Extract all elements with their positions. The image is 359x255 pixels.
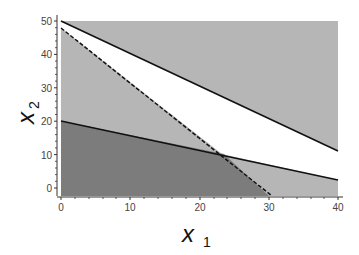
x-axis: 0 10 20 30 40 — [57, 197, 344, 213]
y-tick-label: 40 — [41, 49, 53, 60]
y-tick-label: 20 — [41, 116, 53, 127]
x-tick-label: 30 — [263, 202, 275, 213]
y-tick-label: 0 — [46, 183, 52, 194]
y-tick-label: 30 — [41, 83, 53, 94]
x-tick-label: 40 — [332, 202, 344, 213]
y-axis: 50 40 30 20 10 0 — [41, 15, 57, 196]
x-tick-label: 20 — [194, 202, 206, 213]
svg-text:x: x — [181, 220, 195, 247]
svg-text:2: 2 — [26, 101, 42, 109]
svg-text:x: x — [12, 111, 39, 125]
svg-text:1: 1 — [203, 234, 211, 250]
x-axis-title: x 1 — [181, 220, 211, 250]
y-tick-label: 10 — [41, 150, 53, 161]
plot-area — [61, 21, 338, 196]
x-tick-label: 0 — [58, 202, 64, 213]
y-axis-title: x 2 — [12, 101, 42, 125]
y-tick-label: 50 — [41, 16, 53, 27]
chart: 50 40 30 20 10 0 0 10 20 30 40 — [0, 0, 359, 255]
x-tick-label: 10 — [124, 202, 136, 213]
